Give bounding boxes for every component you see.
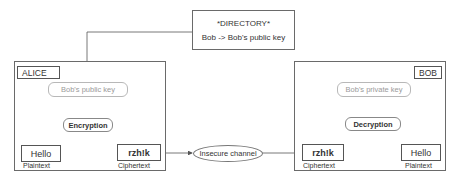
alice-name-label: ALICE [17, 66, 60, 79]
alice-plaintext-box: Hello [21, 145, 61, 162]
alice-ciphertext-box: rzh!k [117, 144, 161, 161]
directory-box: *DIRECTORY* Bob -> Bob's public key [192, 10, 295, 50]
directory-entry: Bob -> Bob's public key [193, 33, 294, 42]
alice-public-key-box: Bob's public key [48, 82, 128, 97]
encryption-box: Encryption [63, 118, 113, 132]
bob-plaintext-label: Plaintext [405, 162, 432, 169]
insecure-channel: Insecure channel [193, 145, 263, 162]
alice-plaintext-value: Hello [31, 149, 52, 159]
alice-ciphertext-label: Ciphertext [118, 162, 150, 169]
encryption-text: Encryption [68, 121, 107, 130]
bob-plaintext-value: Hello [411, 148, 432, 158]
alice-public-key-text: Bob's public key [61, 85, 115, 94]
alice-name-text: ALICE [22, 68, 47, 78]
bob-private-key-text: Bob's private key [346, 85, 403, 94]
bob-private-key-box: Bob's private key [337, 82, 411, 97]
directory-title: *DIRECTORY* [193, 19, 294, 28]
insecure-channel-text: Insecure channel [199, 149, 256, 158]
bob-ciphertext-value: rzh!k [312, 148, 334, 158]
decryption-text: Decryption [353, 120, 392, 129]
alice-plaintext-label: Plaintext [23, 162, 50, 169]
bob-plaintext-box: Hello [401, 144, 441, 161]
bob-name-text: BOB [419, 68, 437, 78]
decryption-box: Decryption [345, 117, 401, 131]
alice-ciphertext-value: rzh!k [128, 148, 150, 158]
bob-ciphertext-label: Ciphertext [303, 162, 335, 169]
bob-ciphertext-box: rzh!k [302, 144, 344, 161]
bob-name-label: BOB [414, 66, 442, 79]
